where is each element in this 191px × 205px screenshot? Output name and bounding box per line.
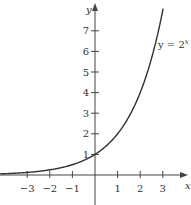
x-tick-label: −1: [65, 183, 80, 194]
y-tick-label: 3: [83, 108, 89, 119]
y-axis-arrow-icon: [92, 3, 98, 11]
x-axis-label: x: [185, 180, 191, 191]
y-tick-label: 2: [83, 128, 89, 139]
exponential-chart: −3−2−11231234567 y x y = 2x: [0, 0, 191, 205]
x-tick-label: 1: [114, 183, 120, 194]
x-tick-label: 3: [160, 183, 166, 194]
y-tick-label: 4: [83, 87, 89, 98]
y-tick-label: 5: [83, 67, 89, 78]
axes: [0, 3, 188, 205]
y-tick-label: 7: [83, 25, 89, 36]
ticks: −3−2−11231234567: [20, 25, 166, 194]
curve-y-equals-2-to-x: [0, 9, 163, 174]
curve-label: y = 2x: [157, 38, 189, 50]
y-tick-label: 6: [83, 46, 89, 57]
x-axis-arrow-icon: [180, 172, 188, 178]
x-tick-label: −3: [20, 183, 35, 194]
y-axis-label: y: [85, 4, 92, 15]
x-tick-label: −2: [42, 183, 57, 194]
x-tick-label: 2: [137, 183, 143, 194]
